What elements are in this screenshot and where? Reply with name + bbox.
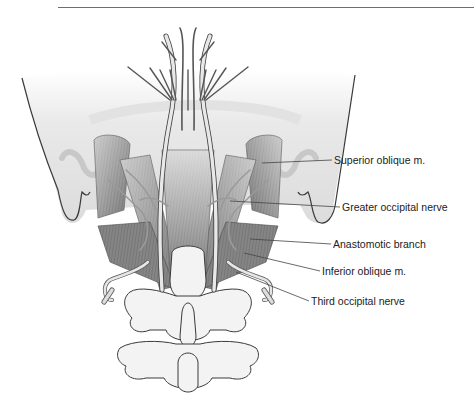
suboccipital-anatomy-illustration	[0, 0, 474, 397]
superior-oblique-muscle-right	[246, 135, 282, 218]
label-anastomotic-branch: Anastomotic branch	[333, 238, 426, 250]
label-superior-oblique-muscle: Superior oblique m.	[334, 154, 425, 166]
label-inferior-oblique-muscle: Inferior oblique m.	[322, 265, 406, 277]
label-third-occipital-nerve: Third occipital nerve	[311, 295, 405, 307]
superior-oblique-muscle-left	[94, 135, 130, 218]
label-greater-occipital-nerve: Greater occipital nerve	[342, 201, 448, 213]
